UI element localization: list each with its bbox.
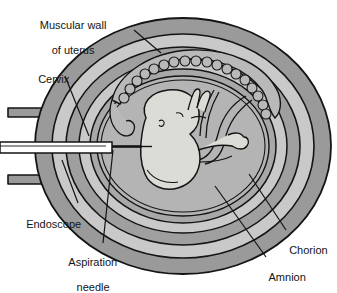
label-amnion: Amnion xyxy=(263,258,306,283)
label-endoscope-text: Endoscope xyxy=(26,218,81,230)
label-cervix-text: Cervix xyxy=(38,73,69,85)
label-muscular-wall-line2: of uterus xyxy=(52,44,95,56)
label-aspiration-needle-line1: Aspiration xyxy=(68,256,117,268)
label-chorion-text: Chorion xyxy=(289,244,328,256)
label-aspiration-needle-line2: needle xyxy=(77,281,110,293)
label-amnion-text: Amnion xyxy=(269,271,306,283)
label-aspiration-needle: Aspiration needle xyxy=(48,243,132,293)
label-chorion: Chorion xyxy=(283,231,328,256)
label-endoscope: Endoscope xyxy=(20,205,81,230)
endoscope-tube xyxy=(0,142,112,153)
label-muscular-wall-line1: Muscular wall xyxy=(40,19,107,31)
label-muscular-wall: Muscular wall of uterus xyxy=(14,6,126,56)
label-cervix: Cervix xyxy=(32,60,69,85)
